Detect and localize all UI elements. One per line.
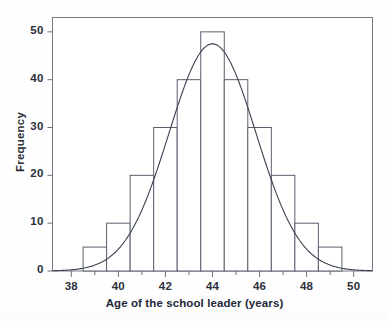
x-tick-label: 50 [340, 280, 368, 292]
plot-area [0, 0, 389, 321]
x-tick-label: 40 [104, 280, 132, 292]
y-tick-label: 50 [30, 24, 43, 36]
page-margin-shade [0, 313, 389, 321]
x-axis-ticks [71, 271, 353, 277]
histogram-bar [177, 80, 201, 271]
histogram-bar [201, 32, 225, 271]
y-tick-label: 0 [37, 263, 44, 275]
histogram-bar [295, 223, 319, 271]
y-axis-title: Frequency [11, 96, 29, 188]
histogram-bar [248, 128, 272, 271]
histogram-figure: 01020304050 38404244464850 Frequency Age… [0, 0, 389, 321]
y-axis-ticks [48, 32, 53, 271]
y-axis-title-text: Frequency [14, 112, 26, 172]
histogram-bar [154, 128, 178, 271]
x-tick-label: 46 [246, 280, 274, 292]
y-tick-label: 40 [30, 72, 43, 84]
x-tick-label: 38 [57, 280, 85, 292]
y-tick-label: 30 [30, 120, 43, 132]
histogram-bar [107, 223, 131, 271]
y-tick-label: 10 [30, 215, 43, 227]
x-tick-label: 44 [199, 280, 227, 292]
y-tick-label: 20 [30, 167, 43, 179]
x-tick-label: 42 [151, 280, 179, 292]
histogram-bar [224, 80, 248, 271]
x-tick-label: 48 [293, 280, 321, 292]
x-axis-title: Age of the school leader (years) [0, 297, 389, 309]
